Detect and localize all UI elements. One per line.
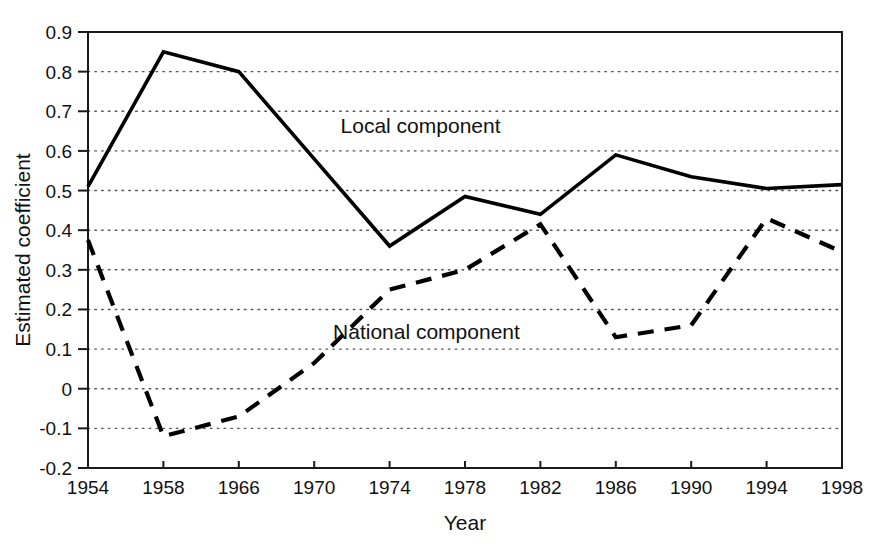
y-tick-label: 0.5 [46,181,72,202]
chart-container: 0.90.80.70.60.50.40.30.20.10-0.1-0.2 195… [0,0,879,549]
y-tick-label: 0.8 [46,62,72,83]
x-tick-label: 1966 [218,477,260,498]
y-tick-label: 0.3 [46,260,72,281]
x-tick-label: 1998 [821,477,863,498]
x-tick-label: 1994 [745,477,788,498]
x-tick-label: 1982 [519,477,561,498]
x-axis-title: Year [444,511,486,534]
x-tick-label: 1970 [293,477,335,498]
y-tick-label: 0.7 [46,101,72,122]
y-tick-label: 0.1 [46,339,72,360]
x-tick-label: 1958 [142,477,184,498]
x-tick-label: 1978 [444,477,486,498]
x-tick-label: 1990 [670,477,712,498]
annotation-label: Local component [341,114,501,137]
y-tick-label: -0.1 [39,418,72,439]
y-tick-label: 0.6 [46,141,72,162]
y-tick-label: 0 [61,379,72,400]
y-axis-title: Estimated coefficient [11,153,34,347]
annotation-label: National component [333,320,520,343]
x-tick-label: 1974 [368,477,411,498]
y-tick-label: 0.9 [46,22,72,43]
line-chart: 0.90.80.70.60.50.40.30.20.10-0.1-0.2 195… [0,0,879,549]
x-tick-label: 1954 [67,477,110,498]
y-tick-label: 0.4 [46,220,73,241]
chart-background [0,0,879,549]
y-tick-label: -0.2 [39,458,72,479]
y-tick-label: 0.2 [46,299,72,320]
x-tick-label: 1986 [595,477,637,498]
